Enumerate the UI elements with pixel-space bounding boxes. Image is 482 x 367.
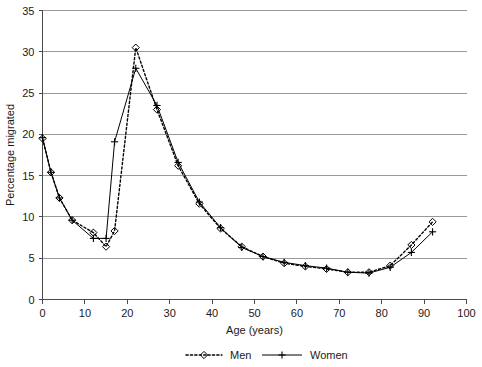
- x-tick-label-10: 10: [79, 307, 91, 319]
- y-axis-title: Percentage migrated: [4, 104, 16, 206]
- y-tick-label-35: 35: [22, 5, 34, 17]
- x-tick-label-40: 40: [206, 307, 218, 319]
- gridlines: [43, 11, 467, 259]
- y-tick-label-0: 0: [28, 294, 34, 306]
- x-tick-label-0: 0: [39, 307, 45, 319]
- y-tick-label-15: 15: [22, 170, 34, 182]
- x-tick-labels: 0102030405060708090100: [39, 307, 475, 319]
- x-tick-label-50: 50: [248, 307, 260, 319]
- axes: [39, 11, 467, 304]
- series-men: [39, 44, 436, 276]
- y-tick-label-25: 25: [22, 87, 34, 99]
- x-tick-label-80: 80: [376, 307, 388, 319]
- y-tick-label-20: 20: [22, 128, 34, 140]
- chart-legend: MenWomen: [186, 349, 348, 361]
- x-tick-label-30: 30: [164, 307, 176, 319]
- x-tick-label-70: 70: [333, 307, 345, 319]
- legend-label-women: Women: [310, 349, 348, 361]
- series-women: [39, 65, 436, 277]
- x-axis-title: Age (years): [226, 324, 283, 336]
- y-tick-label-5: 5: [28, 252, 34, 264]
- legend-label-men: Men: [230, 349, 251, 361]
- x-tick-label-100: 100: [457, 307, 475, 319]
- y-tick-label-30: 30: [22, 46, 34, 58]
- x-tick-label-20: 20: [121, 307, 133, 319]
- y-tick-labels: 05101520253035: [22, 5, 34, 306]
- y-tick-label-10: 10: [22, 211, 34, 223]
- x-tick-label-60: 60: [291, 307, 303, 319]
- chart-container: 0102030405060708090100 05101520253035 Ag…: [0, 0, 482, 367]
- x-tick-label-90: 90: [418, 307, 430, 319]
- line-chart: 0102030405060708090100 05101520253035 Ag…: [0, 0, 482, 367]
